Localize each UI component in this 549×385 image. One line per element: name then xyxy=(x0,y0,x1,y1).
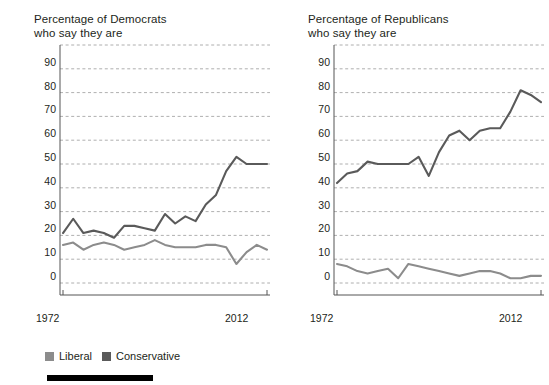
y-tick-label: 40 xyxy=(44,175,56,187)
y-tick-label: 0 xyxy=(324,270,330,282)
panel-title-republicans: Percentage of Republicans who say they a… xyxy=(308,12,449,40)
legend-label-liberal: Liberal xyxy=(59,350,92,362)
plot-area-democrats: 0102030405060708090 xyxy=(34,45,270,307)
y-tick-label: 20 xyxy=(44,222,56,234)
x-axis-label-end-democrats: 2012 xyxy=(225,312,248,324)
legend-label-conservative: Conservative xyxy=(116,350,180,362)
y-tick-label: 30 xyxy=(318,199,330,211)
panel-republicans: Percentage of Republicans who say they a… xyxy=(296,0,549,345)
x-axis-label-start-democrats: 1972 xyxy=(36,312,59,324)
legend-item-liberal: Liberal xyxy=(45,350,92,362)
y-tick-label: 80 xyxy=(318,80,330,92)
bottom-rule-divider xyxy=(47,375,153,381)
y-tick-label: 0 xyxy=(50,270,56,282)
y-tick-label: 60 xyxy=(44,127,56,139)
x-axis-label-end-republicans: 2012 xyxy=(499,312,522,324)
line-chart-republicans: 0102030405060708090 xyxy=(308,45,544,307)
series-line-conservative xyxy=(63,157,267,238)
panel-democrats: Percentage of Democrats who say they are… xyxy=(22,0,282,345)
y-tick-label: 10 xyxy=(318,246,330,258)
legend-swatch-liberal-icon xyxy=(45,352,54,361)
series-line-liberal xyxy=(63,240,267,264)
y-tick-label: 20 xyxy=(318,222,330,234)
y-tick-label: 60 xyxy=(318,127,330,139)
plot-area-republicans: 0102030405060708090 xyxy=(308,45,544,307)
y-tick-label: 90 xyxy=(44,56,56,68)
chart-legend: Liberal Conservative xyxy=(45,350,180,362)
y-tick-label: 70 xyxy=(318,103,330,115)
series-line-liberal xyxy=(337,264,541,278)
y-tick-label: 80 xyxy=(44,80,56,92)
y-tick-label: 90 xyxy=(318,56,330,68)
series-line-conservative xyxy=(337,90,541,183)
y-tick-label: 50 xyxy=(44,151,56,163)
panel-title-democrats: Percentage of Democrats who say they are xyxy=(34,12,167,40)
y-tick-label: 50 xyxy=(318,151,330,163)
y-tick-label: 40 xyxy=(318,175,330,187)
legend-item-conservative: Conservative xyxy=(102,350,180,362)
chart-figure: Percentage of Democrats who say they are… xyxy=(0,0,549,385)
legend-swatch-conservative-icon xyxy=(102,352,111,361)
line-chart-democrats: 0102030405060708090 xyxy=(34,45,270,307)
y-tick-label: 10 xyxy=(44,246,56,258)
y-tick-label: 70 xyxy=(44,103,56,115)
y-tick-label: 30 xyxy=(44,199,56,211)
x-axis-label-start-republicans: 1972 xyxy=(310,312,333,324)
